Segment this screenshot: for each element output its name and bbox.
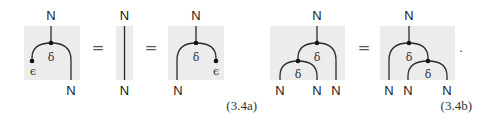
delta-label: δ	[314, 51, 321, 64]
trailing-period: .	[459, 40, 462, 55]
top-label: N	[191, 8, 200, 23]
delta-node	[296, 59, 301, 64]
delta-label: δ	[406, 51, 413, 64]
delta-node	[315, 41, 320, 46]
bottom-label: N	[384, 83, 393, 98]
bottom-label: N	[442, 83, 451, 98]
equals-sign: =	[92, 39, 105, 57]
delta-node	[194, 41, 199, 46]
bottom-label: N	[275, 83, 284, 98]
diagram-coassoc-left: N N N N δ δ	[270, 8, 345, 98]
equation-number: (3.4a)	[226, 98, 257, 113]
diagram-coassoc-right: N N N N δ δ	[380, 8, 455, 98]
diagram-counit-left: N N δ ϵ	[24, 8, 80, 98]
diagram-counit-right: N N δ ϵ	[168, 8, 224, 98]
diagram-identity: N N	[116, 8, 133, 98]
diagram-box	[270, 26, 345, 80]
epsilon-label: ϵ	[213, 65, 219, 78]
equals-sign: =	[145, 39, 158, 57]
bottom-label: N	[403, 83, 412, 98]
top-label: N	[46, 8, 55, 23]
delta-node	[407, 41, 412, 46]
epsilon-node	[30, 59, 35, 64]
epsilon-label: ϵ	[30, 65, 36, 78]
delta-label: δ	[48, 51, 55, 64]
bottom-label: N	[331, 83, 340, 98]
string-diagram-figure: N N δ ϵ = N N = N N δ ϵ (3.4a) N N N N	[0, 0, 503, 121]
bottom-label: N	[312, 83, 321, 98]
top-label: N	[312, 8, 321, 23]
delta-label: δ	[295, 68, 302, 81]
epsilon-node	[214, 59, 219, 64]
top-label: N	[120, 8, 129, 23]
delta-node	[49, 41, 54, 46]
equation-number: (3.4b)	[441, 98, 472, 113]
equals-sign: =	[358, 39, 371, 57]
delta-label: δ	[193, 51, 200, 64]
delta-node	[426, 59, 431, 64]
bottom-label: N	[120, 83, 129, 98]
diagram-box	[380, 26, 455, 80]
delta-label: δ	[425, 68, 432, 81]
bottom-label: N	[66, 83, 75, 98]
bottom-label: N	[173, 83, 182, 98]
top-label: N	[404, 8, 413, 23]
